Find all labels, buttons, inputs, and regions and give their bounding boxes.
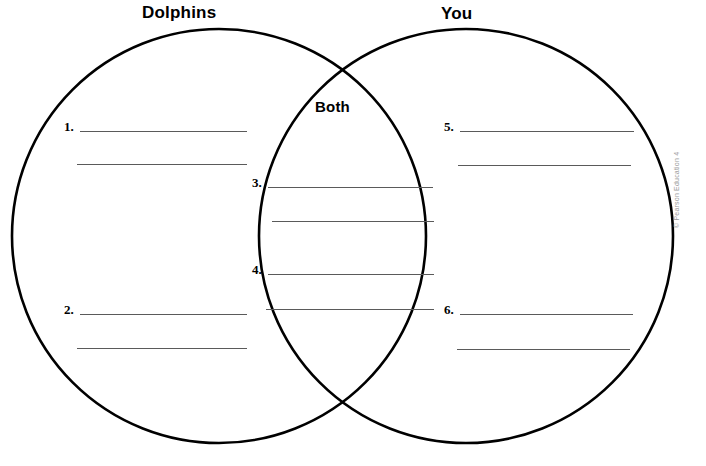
left-circle-title: Dolphins (142, 3, 216, 23)
slot-number-4: 4. (252, 263, 262, 276)
venn-circle-right (259, 29, 673, 443)
slot-number-2: 2. (64, 303, 74, 316)
slot-number-3: 3. (252, 176, 262, 189)
writing-line-5a[interactable] (460, 131, 634, 132)
slot-number-6: 6. (444, 303, 454, 316)
right-circle-title: You (441, 4, 472, 24)
worksheet-page: Dolphins You Both 1. 2. 3. 4. 5. 6. © Pe… (0, 0, 706, 466)
copyright-credit: © Pearson Education 4 (673, 152, 680, 228)
venn-circle-left (12, 29, 426, 443)
writing-line-5b[interactable] (458, 165, 631, 166)
writing-line-3b[interactable] (272, 221, 434, 222)
slot-number-5: 5. (444, 120, 454, 133)
writing-line-2b[interactable] (77, 348, 247, 349)
writing-line-4a[interactable] (268, 274, 434, 275)
slot-number-1: 1. (64, 120, 74, 133)
writing-line-6b[interactable] (457, 349, 630, 350)
intersection-title: Both (315, 98, 350, 115)
writing-line-3a[interactable] (268, 187, 433, 188)
writing-line-4b[interactable] (266, 309, 434, 310)
writing-line-2a[interactable] (80, 314, 247, 315)
writing-line-1b[interactable] (77, 164, 247, 165)
venn-diagram (0, 0, 706, 466)
writing-line-6a[interactable] (460, 314, 633, 315)
writing-line-1a[interactable] (80, 131, 247, 132)
